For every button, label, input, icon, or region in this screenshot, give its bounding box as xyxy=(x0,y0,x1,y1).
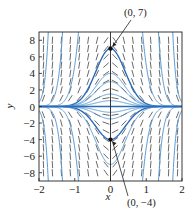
slope-segment xyxy=(103,146,108,151)
slope-segment xyxy=(43,136,44,143)
x-tick-label: −2 xyxy=(33,183,45,195)
slope-segment xyxy=(112,63,117,68)
slope-segment xyxy=(149,112,153,118)
y-tick-label: 8 xyxy=(30,34,36,46)
slope-segment xyxy=(123,161,125,168)
slope-segment xyxy=(96,153,98,160)
slope-segment xyxy=(103,89,110,91)
slope-segment xyxy=(141,53,142,60)
slope-segment xyxy=(95,79,99,85)
slope-segment xyxy=(60,112,63,118)
slope-segment xyxy=(79,161,80,168)
slope-segment xyxy=(158,95,161,101)
slope-segment xyxy=(88,37,89,44)
slope-segment xyxy=(159,62,160,69)
slope-segment xyxy=(78,136,79,143)
slope-segment xyxy=(123,37,125,44)
slope-segment xyxy=(132,144,134,151)
y-tick-label: 4 xyxy=(30,67,36,79)
slope-segment xyxy=(111,98,118,99)
slope-segment xyxy=(141,78,143,85)
slope-segment xyxy=(78,128,80,135)
slope-segment xyxy=(132,153,133,160)
slope-segment xyxy=(150,136,151,143)
slope-segment xyxy=(87,128,90,135)
slope-segment xyxy=(52,136,53,143)
slope-segment xyxy=(104,170,108,176)
slope-segment xyxy=(87,62,89,69)
y-tick-label: 0 xyxy=(30,101,36,113)
slope-segment xyxy=(132,53,133,60)
slope-segment xyxy=(52,62,53,69)
slope-segment xyxy=(61,144,62,151)
y-tick-label: −6 xyxy=(23,150,35,162)
slope-segment xyxy=(78,120,81,127)
slope-segment xyxy=(159,78,160,85)
slope-segment xyxy=(111,114,118,115)
slope-segment xyxy=(79,37,80,44)
slope-segment xyxy=(168,70,169,77)
slope-segment xyxy=(159,144,160,151)
arrow-head xyxy=(113,142,117,147)
y-axis-label: y xyxy=(3,103,15,109)
slope-segment xyxy=(132,45,133,52)
point-label: (0, −4) xyxy=(127,197,156,209)
slope-segment xyxy=(123,169,125,176)
slope-segment xyxy=(52,78,53,85)
annotation-arrow xyxy=(113,142,129,196)
slope-segment xyxy=(78,70,79,77)
slope-segment xyxy=(60,86,62,93)
slope-segment xyxy=(140,120,143,127)
slope-segment xyxy=(150,161,151,168)
slope-segment xyxy=(123,53,125,60)
slope-segment xyxy=(141,37,142,44)
slope-segment xyxy=(61,78,62,85)
annotation-arrow xyxy=(113,20,132,47)
slope-segment xyxy=(78,87,81,94)
slope-segment xyxy=(150,37,151,44)
slope-segment xyxy=(141,169,142,176)
point-label: (0, 7) xyxy=(124,7,147,19)
slope-segment xyxy=(132,128,135,135)
slope-segment xyxy=(150,62,151,69)
slope-segment xyxy=(103,63,108,68)
y-tick-label: −4 xyxy=(23,134,35,146)
slope-segment xyxy=(79,144,80,151)
slope-segment xyxy=(70,144,71,151)
slope-segment xyxy=(159,86,161,93)
slope-segment xyxy=(104,154,109,159)
x-tick-label: 2 xyxy=(179,183,185,195)
slope-segment xyxy=(168,120,170,127)
slope-segment xyxy=(68,112,72,118)
slope-segment xyxy=(141,45,142,52)
slope-segment xyxy=(112,122,119,124)
slope-segment xyxy=(42,95,45,102)
slope-segment xyxy=(141,136,142,143)
slope-segment xyxy=(140,87,143,94)
slope-segment xyxy=(150,70,151,77)
slope-field-chart: −2−1012−8−6−4−202468 x y (0, 7)(0, −4) xyxy=(0,0,195,216)
slope-segment xyxy=(159,128,160,135)
slope-segment xyxy=(79,153,80,160)
slope-segment xyxy=(159,70,160,77)
slope-segment xyxy=(141,70,142,77)
slope-segment xyxy=(43,70,44,77)
slope-segment xyxy=(168,62,169,69)
slope-segment xyxy=(168,53,169,60)
slope-segment xyxy=(104,54,109,59)
slope-segment xyxy=(61,70,62,77)
slope-segment xyxy=(96,53,98,60)
slope-segment xyxy=(70,136,71,143)
slope-segment xyxy=(87,70,89,77)
y-tick-label: 2 xyxy=(30,84,36,96)
slope-segment xyxy=(141,144,142,151)
y-tick-label: 6 xyxy=(30,51,36,63)
slope-segment xyxy=(123,45,125,52)
slope-segment xyxy=(88,161,89,168)
slope-segment xyxy=(141,128,143,135)
slope-segment xyxy=(70,62,71,69)
slope-segment xyxy=(79,53,80,60)
slope-segment xyxy=(61,128,62,135)
slope-segment xyxy=(87,153,88,160)
slope-segment xyxy=(168,144,169,151)
